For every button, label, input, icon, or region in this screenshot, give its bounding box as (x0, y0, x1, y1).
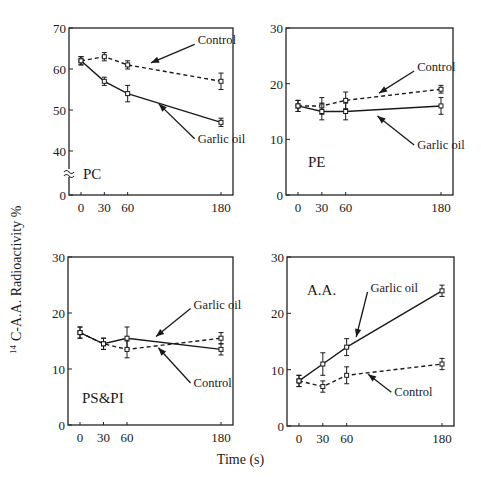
data-point (126, 92, 130, 96)
data-point (345, 345, 349, 349)
y-axis-label: 14C-A.A. Radioactivity % (2, 130, 28, 360)
data-point (102, 79, 106, 83)
x-tick-label: 180 (431, 200, 451, 215)
arrowhead-icon (151, 57, 160, 63)
y-axis-label-superscript: 14 (8, 345, 18, 355)
x-tick-label: 180 (211, 430, 231, 445)
y-tick-label: 0 (277, 188, 284, 203)
data-point (321, 385, 325, 389)
y-tick-label: 30 (270, 21, 283, 36)
data-point (439, 87, 443, 91)
annotation-label: Garlic oil (417, 138, 465, 152)
y-tick-label: 30 (52, 250, 65, 265)
series-control (79, 53, 224, 90)
y-tick-label: 0 (278, 419, 285, 434)
series-garlic-oil (296, 98, 444, 120)
data-point (345, 373, 349, 377)
annotation-label: Garlic oil (198, 132, 246, 146)
series-line (81, 61, 221, 123)
y-tick-label: 50 (53, 103, 66, 118)
y-tick-label: 20 (271, 306, 284, 321)
series-garlic-oil (297, 285, 445, 386)
data-point (320, 110, 324, 114)
annotation-label: Control (194, 376, 233, 390)
x-tick-label: 180 (211, 200, 231, 215)
data-point (440, 362, 444, 366)
figure: 04050607003060180ControlGarlic oilPC0102… (0, 0, 481, 485)
data-point (78, 331, 82, 335)
data-point (344, 110, 348, 114)
series-garlic-oil (78, 327, 224, 355)
x-tick-label: 60 (121, 200, 134, 215)
y-tick-label: 20 (270, 77, 283, 92)
y-tick-label: 0 (59, 418, 66, 433)
annotation-label: Control (198, 33, 237, 47)
y-tick-label: 10 (52, 362, 65, 377)
panel-title: PC (83, 166, 101, 182)
y-tick-label: 30 (271, 250, 284, 265)
x-tick-label: 30 (316, 431, 329, 446)
x-tick-label: 0 (295, 200, 302, 215)
data-point (219, 336, 223, 340)
arrowhead-icon (379, 86, 387, 93)
y-axis-label-text: C-A.A. Radioactivity % (9, 205, 24, 341)
data-point (321, 362, 325, 366)
series-garlic-oil (79, 57, 224, 127)
data-point (344, 98, 348, 102)
data-point (297, 379, 301, 383)
y-tick-label: 60 (53, 62, 66, 77)
data-point (219, 120, 223, 124)
data-point (296, 104, 300, 108)
series-control (78, 327, 224, 358)
x-tick-label: 0 (77, 430, 84, 445)
y-tick-label: 20 (52, 306, 65, 321)
annotation-label: Garlic oil (194, 298, 242, 312)
x-tick-label: 0 (296, 431, 303, 446)
data-point (219, 79, 223, 83)
y-tick-label: 10 (270, 132, 283, 147)
data-point (79, 59, 83, 63)
x-tick-label: 180 (432, 431, 452, 446)
panel-title: PS&PI (82, 390, 124, 406)
panel-pspi: 010203003060180Garlic oilControlPS&PI (52, 250, 242, 445)
plot-area: 04050607003060180ControlGarlic oilPC0102… (0, 0, 481, 485)
data-point (125, 336, 129, 340)
data-point (219, 347, 223, 351)
data-point (126, 63, 130, 67)
panel-pe: 010203003060180ControlGarlic oilPE (270, 21, 465, 215)
panel-title: PE (308, 154, 326, 170)
arrowhead-icon (368, 374, 376, 381)
x-tick-label: 60 (121, 430, 134, 445)
y-tick-label: 40 (53, 144, 66, 159)
x-tick-label: 30 (315, 200, 328, 215)
panel-pc: 04050607003060180ControlGarlic oilPC (53, 21, 246, 215)
x-tick-label: 60 (339, 200, 352, 215)
y-tick-label: 70 (53, 21, 66, 36)
x-tick-label: 60 (340, 431, 353, 446)
annotation-label: Garlic oil (371, 281, 419, 295)
annotation-label: Control (394, 385, 433, 399)
annotation-label: Control (417, 60, 456, 74)
svg-text:14C-A.A. Radioactivity %: 14C-A.A. Radioactivity % (8, 205, 24, 354)
y-tick-label: 10 (271, 363, 284, 378)
x-tick-label: 30 (98, 200, 111, 215)
x-axis-label: Time (s) (0, 452, 481, 468)
panel-aa: 010203003060180Garlic oilControlA.A. (271, 250, 454, 446)
x-tick-label: 0 (78, 200, 85, 215)
y-tick-label: 0 (60, 188, 67, 203)
x-tick-label: 30 (97, 430, 110, 445)
data-point (440, 289, 444, 293)
data-point (102, 55, 106, 59)
data-point (125, 347, 129, 351)
panel-title: A.A. (307, 282, 336, 298)
data-point (102, 342, 106, 346)
data-point (439, 104, 443, 108)
series-line (299, 291, 442, 381)
